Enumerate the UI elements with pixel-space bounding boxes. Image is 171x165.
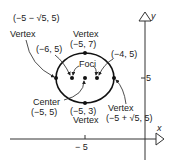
x-axis-arrow-icon — [156, 133, 164, 145]
vertex-right-label: Vertex — [108, 103, 134, 113]
center-coords: (−5, 5) — [31, 107, 57, 117]
ellipse-diagram: x y − 5 5 (−5 − √5, 5) Vertex Vertex (−5… — [0, 0, 171, 165]
y-tick-label: 5 — [146, 73, 151, 83]
focus-right-point — [95, 76, 99, 80]
focus-right-coords: (−4, 5) — [111, 49, 137, 59]
center-point — [83, 76, 87, 80]
vertex-left-point — [54, 76, 58, 80]
vertex-top-point — [83, 51, 87, 55]
vertex-top-label: Vertex — [73, 29, 99, 39]
vertex-left-label: Vertex — [10, 29, 36, 39]
vertex-right-coords: (−5 + √5, 5) — [106, 113, 152, 123]
y-axis-label: y — [150, 11, 156, 21]
x-tick-label: − 5 — [75, 142, 88, 152]
y-axis-arrow-icon — [139, 12, 151, 21]
foci-label: Foci — [79, 59, 96, 69]
vertex-bottom-point — [83, 101, 87, 105]
vertex-right-point — [112, 76, 116, 80]
vertex-top-coords: (−5, 7) — [70, 39, 96, 49]
focus-left-point — [70, 76, 74, 80]
vertex-bottom-label: Vertex — [73, 115, 99, 125]
x-axis-label: x — [156, 123, 162, 133]
center-label: Center — [33, 97, 60, 107]
vertex-right-leader — [116, 80, 126, 104]
vertex-left-coords: (−5 − √5, 5) — [13, 13, 59, 23]
focus-left-coords: (−6, 5) — [36, 44, 62, 54]
